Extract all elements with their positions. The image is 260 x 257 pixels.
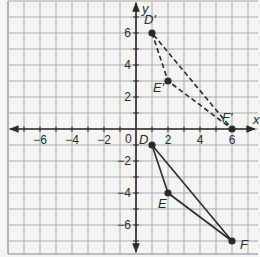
y-tick-label: 2 — [124, 90, 131, 104]
y-tick-label: −2 — [117, 154, 131, 168]
point-label: D′ — [144, 12, 156, 27]
origin-label: 0 — [125, 132, 132, 146]
point-label: F′ — [222, 110, 233, 125]
point-label: D — [139, 132, 148, 147]
x-tick-label: 4 — [197, 133, 204, 147]
y-tick-label: −6 — [117, 218, 131, 232]
point-label: F — [240, 237, 249, 252]
y-tick-label: −4 — [117, 186, 131, 200]
point-f — [228, 237, 235, 244]
x-tick-label: 2 — [165, 133, 172, 147]
grid-lines — [8, 1, 258, 254]
y-tick-label: 4 — [124, 58, 131, 72]
x-axis-label: x — [252, 112, 260, 127]
point-d — [148, 141, 155, 148]
point-d-prime — [148, 29, 155, 36]
point-e-prime — [164, 77, 171, 84]
axes — [10, 3, 255, 252]
x-tick-label: −6 — [33, 133, 47, 147]
point-f-prime — [228, 125, 235, 132]
coordinate-plane: xy0−6−4−2246642−2−4−6 D′E′F′DEF — [0, 0, 260, 257]
x-tick-label: −2 — [97, 133, 111, 147]
point-label: E — [158, 196, 167, 211]
x-tick-label: −4 — [65, 133, 79, 147]
y-tick-label: 6 — [124, 26, 131, 40]
point-label: E′ — [153, 80, 165, 95]
x-tick-label: 6 — [229, 133, 236, 147]
